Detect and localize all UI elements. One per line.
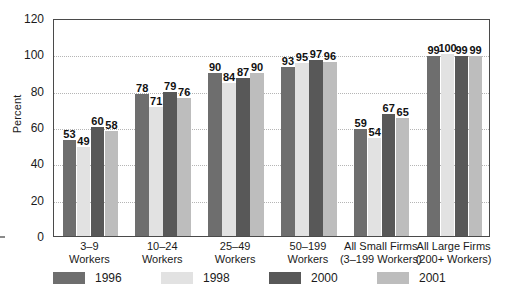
y-tick-label: 80 xyxy=(10,86,44,98)
bar xyxy=(427,56,441,236)
x-axis-label-line1: 10–24 xyxy=(147,240,178,252)
bar xyxy=(105,131,119,236)
plot-area: 5349605878717976908487909395979659546765… xyxy=(53,19,490,237)
y-tick-label: 40 xyxy=(10,158,44,170)
y-tick-label: 100 xyxy=(10,49,44,61)
y-tick-label: 120 xyxy=(10,13,44,25)
bar xyxy=(222,83,236,236)
legend-item[interactable]: 1998 xyxy=(161,270,230,286)
x-axis-label-line2: (200+ Workers) xyxy=(404,253,504,266)
y-tick-label: 60 xyxy=(10,122,44,134)
bar-group: 78717976 xyxy=(127,20,200,236)
bar xyxy=(455,56,469,236)
bar xyxy=(77,147,91,236)
bar xyxy=(177,98,191,236)
bar-group: 59546765 xyxy=(345,20,418,236)
bar xyxy=(250,73,264,237)
legend-label: 2000 xyxy=(311,272,338,284)
bar-value-label: 90 xyxy=(245,62,269,73)
edge-artifact xyxy=(0,236,5,238)
legend-swatch xyxy=(269,272,301,284)
bar xyxy=(354,129,368,236)
legend-label: 2001 xyxy=(419,272,446,284)
legend-item[interactable]: 2001 xyxy=(377,270,446,286)
bar-value-label: 96 xyxy=(318,51,342,62)
bar xyxy=(163,92,177,236)
legend-swatch xyxy=(53,272,85,284)
bar xyxy=(295,63,309,236)
legend-item[interactable]: 1996 xyxy=(53,270,122,286)
bar xyxy=(368,138,382,236)
bar xyxy=(91,127,105,236)
bar xyxy=(323,62,337,236)
bar-value-label: 65 xyxy=(391,107,415,118)
bar xyxy=(281,67,295,236)
bar-value-label: 99 xyxy=(464,45,488,56)
bar-value-label: 76 xyxy=(172,87,196,98)
x-axis-label: All Large Firms(200+ Workers) xyxy=(404,240,504,266)
legend-label: 1996 xyxy=(95,272,122,284)
bar xyxy=(236,78,250,236)
legend-swatch xyxy=(377,272,409,284)
bar xyxy=(396,118,410,236)
bar-group: 93959796 xyxy=(273,20,346,236)
x-axis-label-line1: 50–199 xyxy=(290,240,327,252)
bar xyxy=(441,54,455,236)
bar xyxy=(309,60,323,236)
bar xyxy=(208,73,222,237)
bar xyxy=(382,114,396,236)
bar xyxy=(469,56,483,236)
x-axis-label-line1: 3–9 xyxy=(80,240,98,252)
bar-value-label: 58 xyxy=(100,120,124,131)
bar xyxy=(149,107,163,236)
legend-swatch xyxy=(161,272,193,284)
bar-group: 53496058 xyxy=(54,20,127,236)
x-axis-label-line1: 25–49 xyxy=(220,240,251,252)
bar xyxy=(135,94,149,236)
y-tick-label: 20 xyxy=(10,195,44,207)
chart-figure: Percent 020406080100120 5349605878717976… xyxy=(0,0,510,293)
x-axis-category-labels: 3–9Workers10–24Workers25–49Workers50–199… xyxy=(53,240,490,274)
bar xyxy=(63,140,77,236)
chart-legend: 1996199820002001 xyxy=(53,270,490,290)
legend-label: 1998 xyxy=(203,272,230,284)
bar-value-label: 78 xyxy=(130,83,154,94)
bar-group: 991009999 xyxy=(418,20,491,236)
bar-group: 90848790 xyxy=(200,20,273,236)
legend-item[interactable]: 2000 xyxy=(269,270,338,286)
bars-layer: 5349605878717976908487909395979659546765… xyxy=(54,20,489,236)
x-axis-label-line1: All Large Firms xyxy=(417,240,491,252)
